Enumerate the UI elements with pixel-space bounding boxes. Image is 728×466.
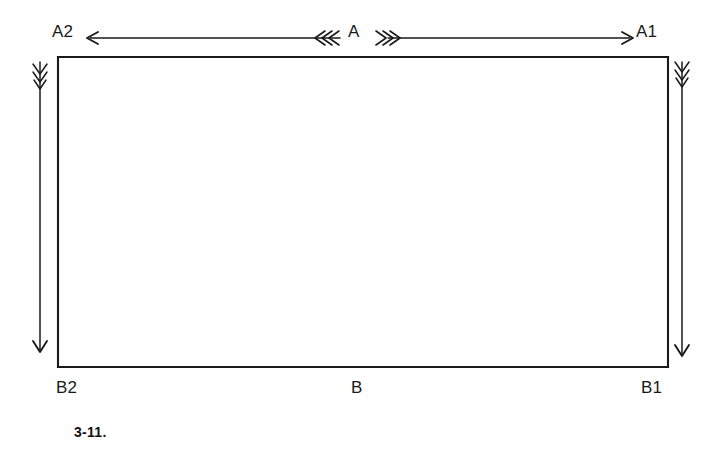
label-b: B — [351, 378, 363, 398]
label-a: A — [348, 22, 360, 42]
label-b2: B2 — [56, 378, 77, 398]
label-a1: A1 — [636, 22, 657, 42]
figure-canvas — [0, 0, 728, 466]
figure-caption: 3-11. — [74, 424, 107, 440]
label-a2: A2 — [52, 22, 73, 42]
label-b1: B1 — [641, 378, 662, 398]
rectangle-outline — [58, 57, 668, 367]
technical-drawing-figure: A2 A A1 B2 B B1 3-11. — [0, 0, 728, 466]
